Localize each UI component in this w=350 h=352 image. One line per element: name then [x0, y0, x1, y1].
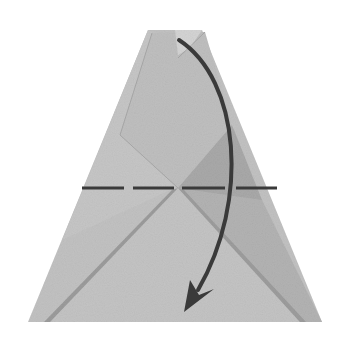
origami-diagram: [0, 0, 350, 352]
paper: [28, 30, 322, 322]
origami-fold-illustration: [0, 0, 350, 352]
